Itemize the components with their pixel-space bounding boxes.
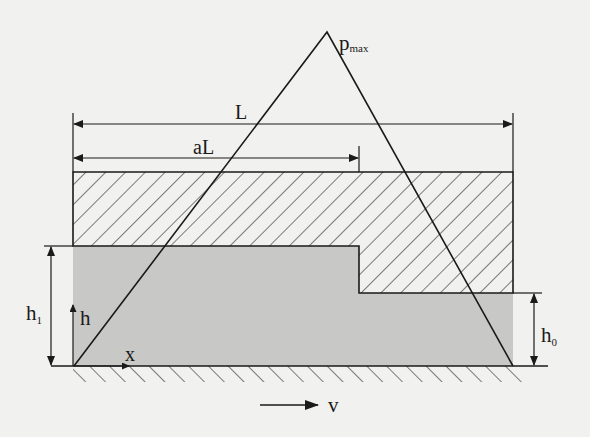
pmax-main: p bbox=[339, 31, 350, 55]
pmax-label: pmax bbox=[339, 31, 369, 55]
outlet-height-sub: 0 bbox=[552, 336, 558, 348]
ground-hatch bbox=[73, 366, 525, 382]
outlet-height-main: h bbox=[541, 323, 552, 347]
x-axis-label: x bbox=[125, 343, 135, 365]
length-label: L bbox=[235, 101, 247, 123]
outlet-height-label: h0 bbox=[541, 323, 558, 348]
step-length-label: aL bbox=[193, 136, 214, 158]
velocity-label: v bbox=[328, 393, 339, 417]
pmax-sub: max bbox=[350, 42, 369, 54]
inlet-height-sub: 1 bbox=[37, 314, 43, 326]
inlet-height-label: h1 bbox=[26, 301, 42, 326]
inlet-height-main: h bbox=[26, 301, 37, 325]
height-axis-label: h bbox=[80, 306, 91, 330]
bearing-diagram: L aL h1 h0 h x pmax v bbox=[0, 0, 590, 437]
